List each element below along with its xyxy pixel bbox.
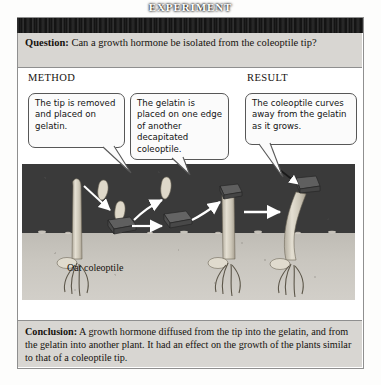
callout-tail-3 — [248, 137, 298, 179]
curved-coleoptile — [270, 176, 320, 297]
conclusion-block: Conclusion: A growth hormone diffused fr… — [18, 320, 362, 367]
question-text: Can a growth hormone be isolated from th… — [69, 37, 317, 48]
method-label: METHOD — [28, 72, 75, 83]
conclusion-label: Conclusion: — [25, 326, 77, 337]
illustration-art — [22, 164, 355, 300]
experiment-illustration: Oat coleoptile — [22, 164, 355, 300]
severed-tip-2 — [161, 177, 171, 199]
callout-method-step-2: The gelatin is placed on one edge of ano… — [130, 93, 229, 160]
experiment-figure: EXPERIMENT Question: Can a growth hormon… — [0, 0, 381, 385]
question-label: Question: — [25, 37, 69, 48]
illustration-caption: Oat coleoptile — [67, 262, 123, 273]
severed-tip-1 — [98, 180, 108, 200]
question-block: Question: Can a growth hormone be isolat… — [18, 33, 362, 68]
arrow-to-decapitated-plant — [192, 202, 220, 220]
callout-tail-2 — [165, 152, 205, 178]
callout-tail-1 — [88, 140, 138, 174]
result-label: RESULT — [247, 72, 288, 83]
experiment-header-bar — [17, 18, 363, 33]
experiment-title: EXPERIMENT — [0, 0, 381, 15]
decapitated-coleoptile — [208, 184, 242, 296]
header-texture — [17, 18, 363, 33]
gelatin-block-with-tip — [108, 201, 136, 234]
gelatin-block-transferred — [164, 211, 192, 228]
intact-coleoptile — [57, 179, 88, 296]
arrow-gelatin-diffusion — [134, 200, 162, 220]
